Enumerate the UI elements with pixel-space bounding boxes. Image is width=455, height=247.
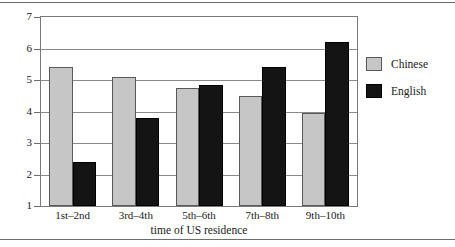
y-tick-label: 6: [6, 43, 32, 54]
y-tick-label: 2: [6, 169, 32, 180]
bar-english-3: [199, 85, 223, 206]
bar-english-4: [262, 67, 286, 206]
y-tick-label: 4: [6, 106, 32, 117]
top-divider-rule: [0, 2, 455, 3]
bar-chinese-4: [239, 96, 263, 206]
bar-chinese-5: [302, 113, 326, 206]
x-tick-label: 9th–10th: [294, 209, 357, 222]
y-axis-tick-labels: 1234567: [0, 0, 32, 247]
chart-legend: Chinese English: [366, 56, 454, 110]
y-tick-label: 3: [6, 137, 32, 148]
bar-chinese-1: [49, 67, 73, 206]
x-axis-tick-labels: 1st–2nd3rd–4th5th–6th7th–8th9th–10th: [40, 209, 358, 225]
x-tick-label: 3rd–4th: [104, 209, 167, 222]
legend-label-chinese: Chinese: [391, 58, 428, 70]
bar-english-5: [325, 42, 349, 206]
x-tick-label: 7th–8th: [231, 209, 294, 222]
bar-chinese-2: [112, 77, 136, 206]
x-tick-label: 1st–2nd: [41, 209, 104, 222]
legend-item-chinese: Chinese: [366, 56, 454, 72]
bottom-divider-rule: [0, 239, 455, 240]
y-tick-label: 1: [6, 200, 32, 211]
bar-chart-figure: 1234567 1st–2nd3rd–4th5th–6th7th–8th9th–…: [0, 0, 455, 247]
legend-swatch-chinese-icon: [366, 57, 382, 71]
bar-english-1: [73, 162, 97, 206]
legend-swatch-english-icon: [366, 84, 382, 98]
bar-chinese-3: [176, 88, 200, 206]
y-tick-label: 7: [6, 11, 32, 22]
legend-label-english: English: [391, 85, 426, 97]
legend-item-english: English: [366, 83, 454, 99]
bar-english-2: [136, 118, 160, 206]
x-axis-title: time of US residence: [40, 224, 358, 236]
bars-layer: [41, 17, 357, 206]
y-tick-label: 5: [6, 74, 32, 85]
x-tick-label: 5th–6th: [167, 209, 230, 222]
